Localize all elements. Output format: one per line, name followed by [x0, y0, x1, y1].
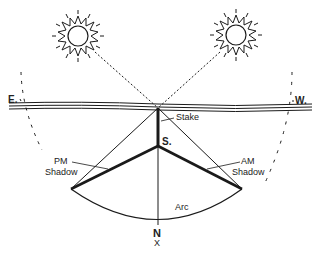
north-mark: X: [154, 239, 160, 248]
west-label: W.: [295, 96, 307, 106]
pm-shadow: [71, 146, 158, 189]
east-label: E.: [8, 95, 17, 105]
west-dashed-arc: [264, 72, 292, 185]
arc: [71, 189, 242, 220]
pm-shadow-label-1: PM: [54, 157, 68, 166]
am-shadow-label-1: AM: [241, 157, 255, 166]
right-sun-ray: [158, 52, 220, 108]
east-dashed-arc: [21, 72, 42, 150]
pm-shadow-label-2: Shadow: [45, 168, 78, 177]
am-shadow: [158, 146, 242, 189]
left-sun-icon: [52, 10, 104, 62]
left-sun-ray: [95, 52, 158, 108]
right-sun-icon: [210, 9, 262, 61]
stake-base-label: S.: [162, 137, 171, 147]
diagram-canvas: E. W. Stake S. PM Shadow AM Shadow Arc N…: [0, 0, 318, 255]
am-shadow-label-2: Shadow: [232, 168, 265, 177]
arc-label: Arc: [175, 203, 189, 212]
stake-label: Stake: [176, 113, 199, 122]
diagram-graphics: [0, 0, 318, 255]
